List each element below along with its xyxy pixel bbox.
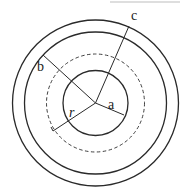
radius-b-label: b [37, 59, 44, 74]
radius-c-line [96, 26, 130, 103]
radius-a-label: a [108, 97, 115, 112]
radius-c-label: c [131, 8, 137, 23]
radius-b-line [43, 55, 96, 103]
concentric-sphere-diagram: abcr [0, 0, 187, 193]
radius-r-label: r [69, 105, 75, 120]
diagram-canvas: abcr [0, 0, 187, 193]
